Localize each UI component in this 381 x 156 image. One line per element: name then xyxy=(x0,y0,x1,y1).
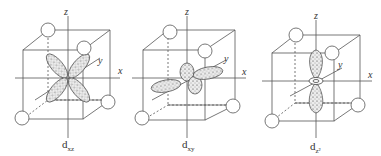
z-axis-label: z xyxy=(64,6,68,17)
orbital-diagrams xyxy=(0,0,381,156)
x-axis-label: x xyxy=(118,65,122,76)
y-axis-label: y xyxy=(224,53,228,64)
panel-dxz xyxy=(15,16,120,138)
d-orbital-figure: z x y z x y z x y dxz dxy dz² xyxy=(0,0,381,156)
caption-dxy: dxy xyxy=(182,138,195,153)
caption-dxz: dxz xyxy=(62,138,74,153)
x-axis-label: x xyxy=(242,66,246,77)
panel-dz2 xyxy=(262,20,372,138)
caption-dz2: dz² xyxy=(310,140,321,155)
y-axis-label: y xyxy=(338,59,342,70)
y-axis-label: y xyxy=(98,55,102,66)
x-axis-label: x xyxy=(368,69,372,80)
z-axis-label: z xyxy=(185,6,189,17)
z-axis-label: z xyxy=(314,10,318,21)
panel-dxy xyxy=(132,16,246,138)
